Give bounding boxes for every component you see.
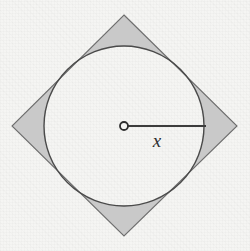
radius-label: x: [152, 130, 162, 151]
center-point-marker: [120, 122, 128, 130]
figure-canvas: x: [0, 0, 250, 251]
geometry-figure: x: [0, 0, 250, 251]
